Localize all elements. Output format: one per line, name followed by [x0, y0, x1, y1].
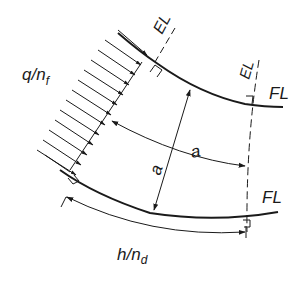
label-dimension-h: h/nd [117, 245, 148, 267]
dimension-h-extension-left [61, 197, 71, 207]
label-dimension-a-arc: a [189, 141, 202, 162]
label-dimension-a-radial: a [146, 162, 167, 177]
flange-line-top [118, 33, 283, 107]
label-flange-line-top: FL [269, 84, 289, 103]
label-flange-line-bottom: FL [262, 188, 282, 207]
label-load: q/nf [22, 65, 51, 88]
diagram-canvas: q/nf EL EL FL FL a a h/nd [0, 0, 301, 283]
label-edge-line-top: EL [150, 11, 174, 36]
right-angle-marker-top-right [246, 96, 253, 104]
edge-line-right [247, 60, 259, 232]
label-edge-line-right: EL [236, 58, 257, 80]
dimension-a-radial [154, 90, 190, 210]
flange-line-bottom [60, 170, 278, 218]
load-boundary [70, 62, 142, 170]
load-arrows [37, 30, 147, 175]
right-angle-marker-top [150, 65, 162, 77]
